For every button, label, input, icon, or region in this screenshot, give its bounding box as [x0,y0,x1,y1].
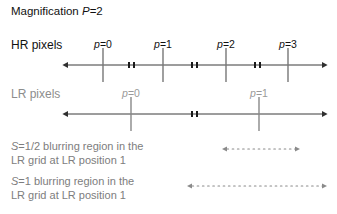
figure-canvas: Magnification P=2 HR pixels LR pixels p=… [0,0,337,214]
lr-axis-group [68,97,322,131]
diagram-vector-overlay [0,0,337,214]
hr-axis-group [68,48,322,82]
